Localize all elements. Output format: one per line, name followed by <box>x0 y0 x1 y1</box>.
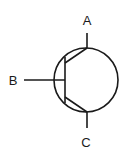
transistor-diagram: A B C <box>0 0 124 158</box>
label-b: B <box>9 73 18 88</box>
label-a: A <box>83 13 92 28</box>
label-c: C <box>81 135 90 150</box>
